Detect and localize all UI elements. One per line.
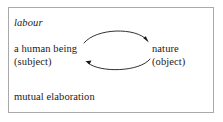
labour-heading: labour <box>14 17 43 29</box>
right-node-qualifier: (object) <box>152 56 185 68</box>
mutual-elaboration-caption: mutual elaboration <box>14 91 95 103</box>
figure-root: labour a human being (subject) nature (o… <box>0 0 223 122</box>
left-node-term: a human being <box>14 43 77 55</box>
right-node-term: nature <box>152 43 179 55</box>
left-node-qualifier: (subject) <box>14 56 52 68</box>
